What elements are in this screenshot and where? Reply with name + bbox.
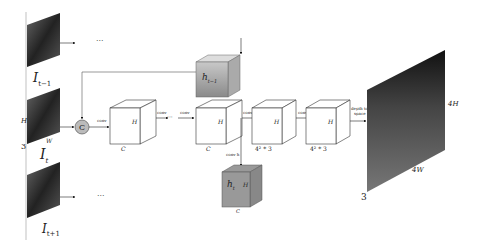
- block-2-h: H: [218, 118, 223, 125]
- hidden-cur-label: ht: [227, 179, 235, 191]
- block-3-h: H: [274, 118, 279, 125]
- frame-prev-label: It−1: [33, 70, 51, 88]
- ellipsis-bottom: ···: [97, 191, 105, 200]
- ellipsis-mid: ···: [167, 113, 173, 120]
- hidden-cur-d: C: [236, 208, 240, 214]
- output-c: 3: [361, 192, 367, 202]
- output-h: 4H: [448, 100, 459, 108]
- hidden-cur-h: H: [243, 181, 248, 188]
- block-1-d: C: [121, 145, 126, 152]
- frame-cur-h: H: [21, 117, 27, 125]
- block-3-d: 4² * 3: [255, 145, 272, 152]
- block-4-d: 4² * 3: [310, 145, 327, 152]
- hidden-prev-label: ht−1: [202, 72, 217, 84]
- block-4-h: H: [328, 118, 333, 125]
- frame-next-label: It+1: [42, 222, 60, 238]
- frame-cur-w: W: [46, 137, 52, 144]
- ellipsis-top: ···: [96, 36, 104, 45]
- block-1-h: H: [132, 118, 137, 125]
- output-w: 4W: [412, 166, 424, 174]
- frame-cur-c: 3: [21, 142, 26, 151]
- frame-cur-label: It: [40, 146, 48, 165]
- block-2-d: C: [206, 145, 211, 152]
